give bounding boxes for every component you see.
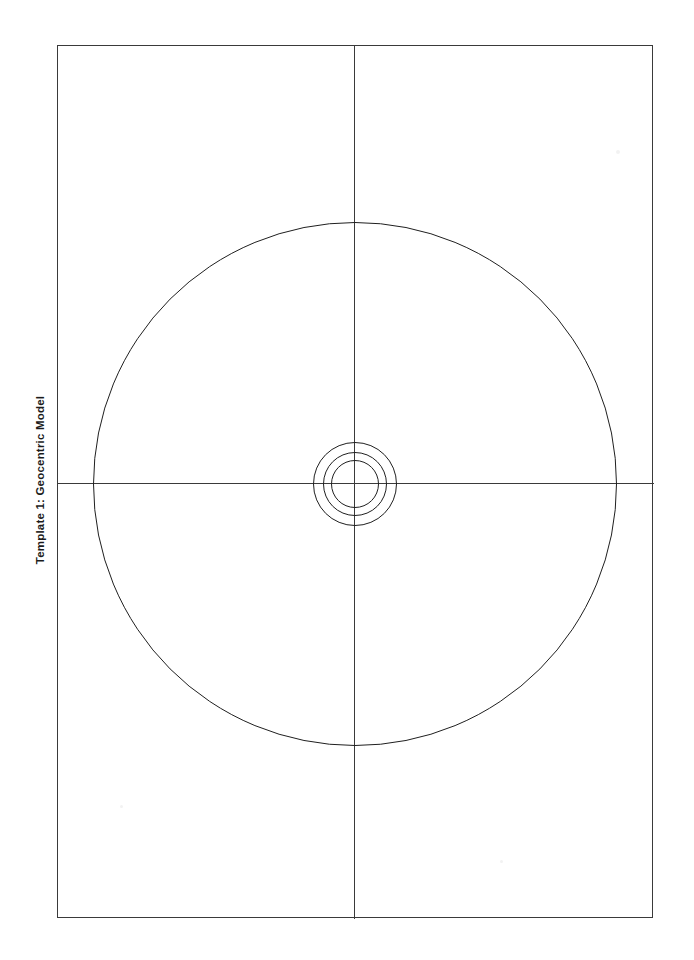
drawing-frame — [57, 45, 653, 918]
template-caption: Template 1: Geocentric Model — [34, 396, 46, 564]
page-sheet: Template 1: Geocentric Model — [0, 0, 694, 960]
orbit-ring-1-circle — [331, 460, 379, 508]
